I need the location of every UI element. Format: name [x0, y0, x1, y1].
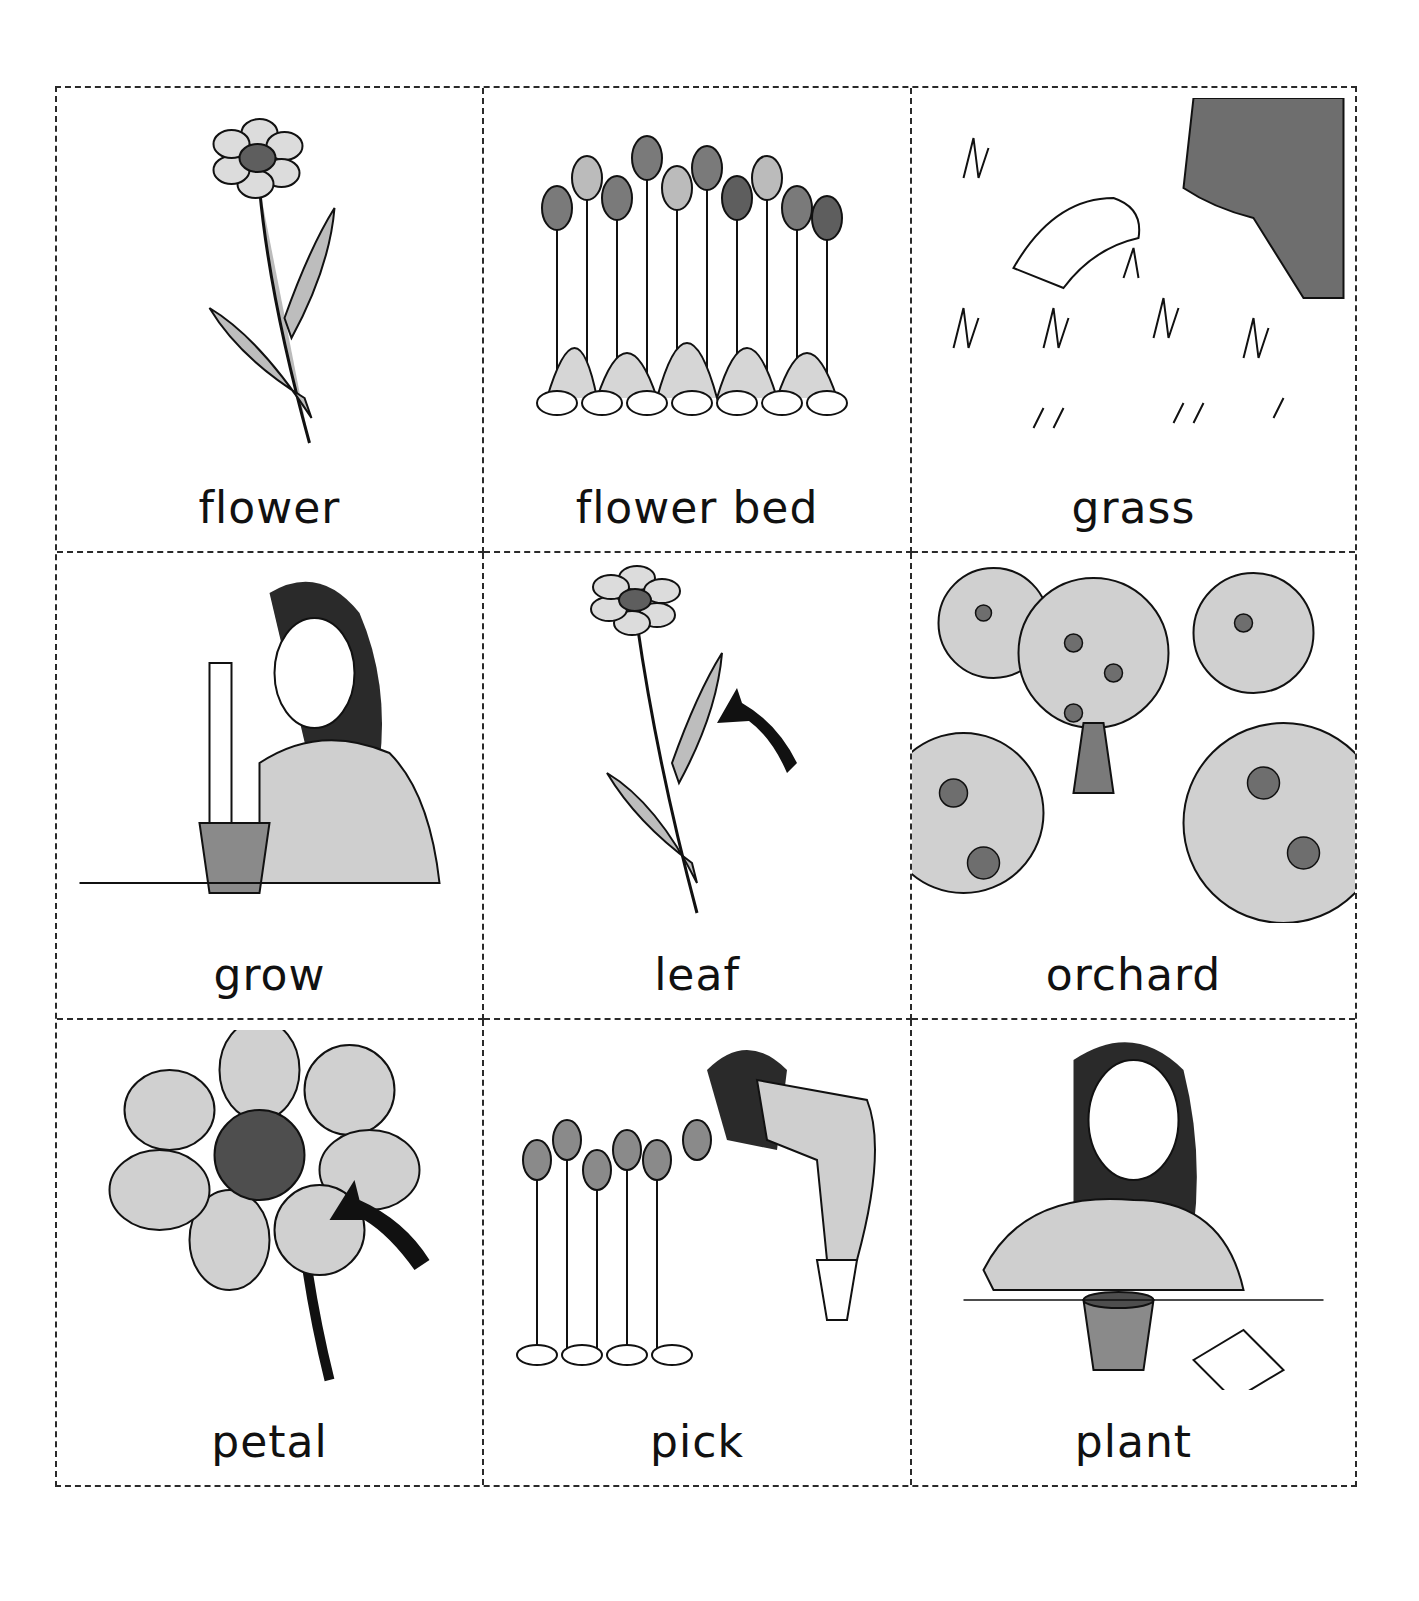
girl-picking-tulips-icon	[484, 1030, 910, 1390]
grass-icon	[912, 98, 1355, 458]
flower-icon	[57, 98, 482, 458]
vocabulary-card-sheet: flower	[55, 86, 1357, 1487]
card-label: leaf	[484, 949, 910, 1000]
card-label: flower	[57, 482, 482, 533]
girl-measuring-plant-icon	[57, 563, 482, 923]
card-plant[interactable]: plant	[912, 1020, 1355, 1485]
card-grow[interactable]: grow	[57, 553, 484, 1020]
card-label: orchard	[912, 949, 1355, 1000]
card-flower[interactable]: flower	[57, 88, 484, 553]
petal-with-arrow-icon	[57, 1030, 482, 1390]
flower-bed-icon	[484, 98, 910, 458]
card-leaf[interactable]: leaf	[484, 553, 912, 1020]
card-pick[interactable]: pick	[484, 1020, 912, 1485]
card-label: flower bed	[484, 482, 910, 533]
card-orchard[interactable]: orchard	[912, 553, 1355, 1020]
girl-planting-seed-icon	[912, 1030, 1355, 1390]
card-flower-bed[interactable]: flower bed	[484, 88, 912, 553]
card-label: plant	[912, 1416, 1355, 1467]
orchard-icon	[912, 563, 1355, 923]
leaf-with-arrow-icon	[484, 563, 910, 923]
card-label: pick	[484, 1416, 910, 1467]
card-label: petal	[57, 1416, 482, 1467]
card-label: grow	[57, 949, 482, 1000]
card-grass[interactable]: grass	[912, 88, 1355, 553]
card-label: grass	[912, 482, 1355, 533]
card-petal[interactable]: petal	[57, 1020, 484, 1485]
